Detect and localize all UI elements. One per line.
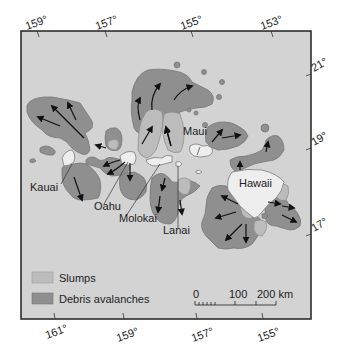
right-lat-19: 19° [309,129,329,148]
island-maui [190,144,213,157]
landslide-map: Kauai Oahu Molokai Lanai Maui Hawaii 159… [0,0,345,354]
island-kahoolawe [196,170,202,174]
legend-label-slumps: Slumps [59,272,96,284]
island-lanai [176,161,182,166]
top-lon-159: 159° [24,13,49,32]
label-oahu: Oahu [94,200,121,212]
bottom-lon-161: 161° [44,322,69,341]
right-lat-17: 17° [309,215,329,234]
legend-swatch-slumps [32,272,53,283]
legend-label-debris-avalanches: Debris avalanches [59,293,150,305]
label-kauai: Kauai [30,181,58,193]
top-lon-153: 153° [259,13,284,32]
scale-label-100: 100 [229,288,247,300]
bottom-lon-159: 159° [115,325,140,344]
top-lon-155: 155° [179,13,204,32]
legend-swatch-debris-avalanches [32,293,53,304]
right-lat-21: 21° [309,55,329,74]
label-maui: Maui [183,125,207,137]
scale-label-0: 0 [193,288,199,300]
label-lanai: Lanai [163,224,190,236]
label-molokai: Molokai [119,212,157,224]
island-oahu [120,152,136,166]
bottom-lon-157: 157° [190,325,215,344]
bottom-lon-155: 155° [256,325,281,344]
top-lon-157: 157° [94,13,119,32]
label-hawaii: Hawaii [239,177,272,189]
scale-label-200: 200 km [257,288,293,300]
